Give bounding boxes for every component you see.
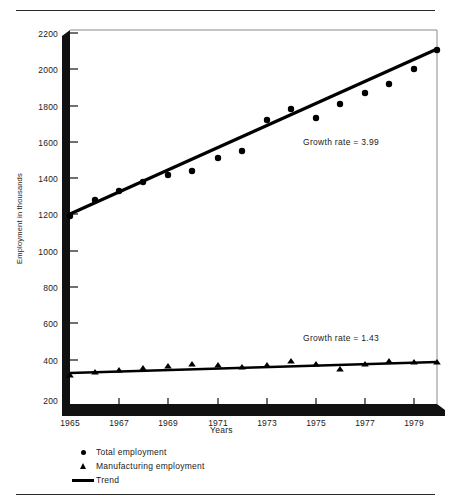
data-point xyxy=(116,188,122,194)
xtick-label: 1967 xyxy=(104,418,134,428)
y-tick-marks xyxy=(70,33,78,360)
line-icon xyxy=(70,479,96,482)
legend-item-total-employment: Total employment xyxy=(70,445,205,459)
ytick-label: 2000 xyxy=(26,65,58,75)
data-point xyxy=(188,361,196,367)
data-point xyxy=(115,367,123,373)
data-point xyxy=(214,362,222,368)
data-point xyxy=(140,179,146,185)
legend-item-manufacturing-employment: Manufacturing employment xyxy=(70,459,205,473)
data-point xyxy=(215,155,221,161)
data-point xyxy=(165,172,171,178)
data-point xyxy=(385,358,393,364)
xtick-label: 1965 xyxy=(55,418,85,428)
ytick-label: 1200 xyxy=(26,210,58,220)
triangle-icon xyxy=(70,463,96,469)
ytick-label: 400 xyxy=(26,356,58,366)
x-axis-title: Years xyxy=(210,425,233,435)
xtick-label: 1979 xyxy=(399,418,429,428)
data-point xyxy=(164,363,172,369)
data-point xyxy=(336,366,344,372)
annotation-manufacturing-growth-rate: Growth rate = 1.43 xyxy=(303,333,379,343)
ytick-label: 2200 xyxy=(26,29,58,39)
data-point xyxy=(67,213,73,219)
ytick-label: 1400 xyxy=(26,174,58,184)
data-point xyxy=(92,197,98,203)
plot-frame xyxy=(70,30,437,404)
ytick-label: 1600 xyxy=(26,138,58,148)
dot-icon xyxy=(70,450,96,455)
y-axis-title: Employment in thousands xyxy=(15,169,24,269)
legend-label: Total employment xyxy=(96,447,167,457)
xtick-label: 1977 xyxy=(350,418,380,428)
ytick-label: 800 xyxy=(26,283,58,293)
data-point xyxy=(337,101,343,107)
legend-label: Trend xyxy=(96,475,119,485)
data-point xyxy=(386,81,392,87)
legend-item-trend: Trend xyxy=(70,473,205,487)
data-point xyxy=(362,90,368,96)
ytick-label: 1800 xyxy=(26,102,58,112)
xtick-label: 1975 xyxy=(301,418,331,428)
data-point xyxy=(313,115,319,121)
data-point xyxy=(287,358,295,364)
legend-label: Manufacturing employment xyxy=(96,461,205,471)
chart-legend: Total employment Manufacturing employmen… xyxy=(70,445,205,487)
xtick-label: 1969 xyxy=(153,418,183,428)
data-point xyxy=(263,362,271,368)
xtick-label: 1973 xyxy=(252,418,282,428)
annotation-total-growth-rate: Growth rate = 3.99 xyxy=(303,137,379,147)
data-point xyxy=(434,47,440,53)
ytick-label: 200 xyxy=(26,396,58,406)
data-point xyxy=(189,168,195,174)
ytick-label: 600 xyxy=(26,319,58,329)
chart-plot-area: 2200 2000 1800 1600 1400 1200 1000 800 6… xyxy=(0,0,451,504)
data-point xyxy=(312,361,320,367)
y-axis-slab xyxy=(62,30,70,410)
trend-line-total xyxy=(70,49,437,214)
figure-container: 2200 2000 1800 1600 1400 1200 1000 800 6… xyxy=(0,0,451,504)
data-point xyxy=(288,106,294,112)
data-point xyxy=(264,117,270,123)
data-point xyxy=(239,148,245,154)
ytick-label: 1000 xyxy=(26,247,58,257)
data-point xyxy=(411,66,417,72)
data-point xyxy=(139,365,147,371)
trend-line-manufacturing xyxy=(70,362,437,373)
